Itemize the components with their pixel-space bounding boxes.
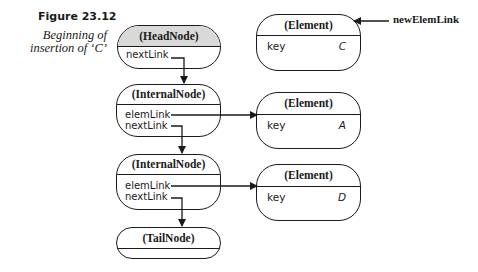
internal-1-next-link-arrow [171, 126, 182, 153]
head-next-link-arrow [171, 58, 184, 83]
internal-2-next-link-arrow [171, 198, 182, 226]
link-arrows [0, 0, 478, 272]
